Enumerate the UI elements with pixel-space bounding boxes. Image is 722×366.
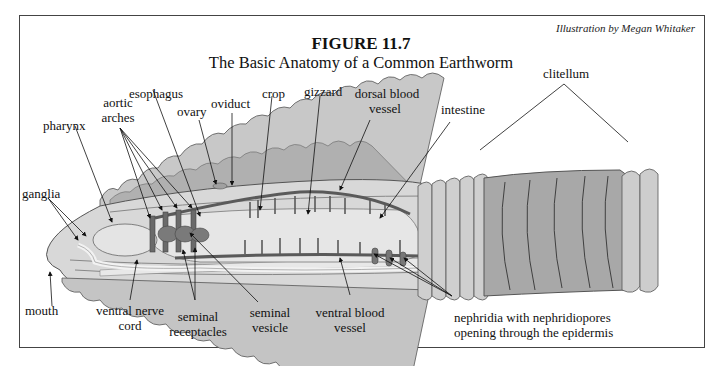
label-seminal-receptacles-1: seminal <box>164 309 232 324</box>
label-mouth: mouth <box>25 303 58 318</box>
label-ventral-nerve-cord-2: cord <box>90 318 170 333</box>
label-oviduct: oviduct <box>211 96 250 111</box>
illustration-credit: Illustration by Megan Whitaker <box>556 22 695 34</box>
label-ventral-blood-vessel-1: ventral blood <box>310 305 390 320</box>
label-ganglia: ganglia <box>22 186 60 201</box>
label-ovary: ovary <box>177 104 207 119</box>
posterior-segments <box>418 174 488 300</box>
label-gizzard: gizzard <box>304 84 342 99</box>
figure-title: The Basic Anatomy of a Common Earthworm <box>0 53 722 73</box>
label-aortic-arches-1: aortic <box>98 95 138 110</box>
label-seminal-vesicle-1: seminal <box>245 305 295 320</box>
label-crop: crop <box>262 86 285 101</box>
seminal-vesicles <box>158 226 209 242</box>
label-clitellum: clitellum <box>543 66 589 81</box>
label-nephridia-1: nephridia with nephridiopores <box>454 310 611 325</box>
label-seminal-vesicle-2: vesicle <box>245 320 295 335</box>
ovary <box>213 183 227 189</box>
label-pharynx: pharynx <box>43 118 86 133</box>
pharynx <box>93 224 157 256</box>
label-ventral-nerve-cord-1: ventral nerve <box>90 303 170 318</box>
label-nephridia-2: opening through the epidermis <box>454 325 613 340</box>
label-aortic-arches-2: arches <box>98 110 138 125</box>
label-ventral-blood-vessel-2: vessel <box>310 320 390 335</box>
label-dorsal-blood-vessel-2: vessel <box>360 101 410 116</box>
figure-number: FIGURE 11.7 <box>0 34 722 54</box>
label-intestine: intestine <box>441 102 485 117</box>
label-seminal-receptacles-2: receptacles <box>164 324 232 339</box>
label-dorsal-blood-vessel-1: dorsal blood <box>347 86 427 101</box>
